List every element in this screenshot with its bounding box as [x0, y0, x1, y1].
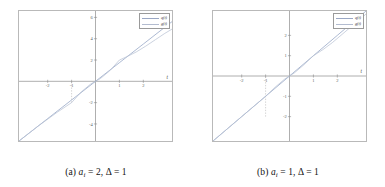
- svg-text:-2: -2: [240, 78, 245, 83]
- legend-line-swatch: [142, 18, 159, 19]
- legend-entry: g(t): [336, 21, 361, 27]
- legend-entry: g(t): [142, 21, 167, 27]
- svg-text:1: 1: [312, 78, 314, 83]
- caption-delta: Δ = 1: [106, 167, 127, 177]
- svg-text:-2: -2: [89, 100, 94, 105]
- svg-text:-2: -2: [46, 83, 51, 88]
- svg-text:-1: -1: [283, 94, 287, 99]
- caption-value: = 2,: [88, 167, 103, 177]
- svg-text:-2: -2: [283, 114, 288, 119]
- caption-index: (a): [65, 167, 76, 177]
- caption-index: (b): [257, 167, 268, 177]
- plot-area-a: -2-112-4-2246t q(t) g(t): [18, 10, 173, 142]
- caption-value: = 1,: [280, 167, 295, 177]
- legend-label: g(t): [355, 21, 361, 27]
- caption-subscript: i: [276, 171, 278, 179]
- panel-a: -2-112-4-2246t q(t) g(t) (a) ai = 2, Δ =…: [0, 0, 192, 187]
- svg-text:2: 2: [284, 33, 287, 38]
- svg-text:-4: -4: [89, 122, 94, 127]
- legend-line-swatch: [336, 24, 353, 25]
- legend-line-swatch: [142, 24, 159, 25]
- svg-text:2: 2: [336, 78, 339, 83]
- legend-a: q(t) g(t): [139, 13, 170, 29]
- panel-b: -2-112-2-112t q(t) g(t) (b) ai = 1, Δ = …: [192, 0, 384, 187]
- caption-subscript: i: [83, 171, 85, 179]
- plot-area-b: -2-112-2-112t q(t) g(t): [212, 10, 367, 142]
- svg-text:2: 2: [142, 83, 145, 88]
- caption-delta: Δ = 1: [298, 167, 319, 177]
- legend-line-swatch: [336, 18, 353, 19]
- legend-b: q(t) g(t): [333, 13, 364, 29]
- svg-text:t: t: [167, 74, 169, 80]
- svg-text:6: 6: [90, 15, 93, 20]
- svg-text:2: 2: [90, 58, 93, 63]
- plot-canvas-a: -2-112-4-2246t: [19, 11, 172, 141]
- plot-canvas-b: -2-112-2-112t: [213, 11, 366, 141]
- caption-b: (b) ai = 1, Δ = 1: [192, 167, 384, 179]
- caption-a: (a) ai = 2, Δ = 1: [0, 167, 192, 179]
- figure-two-panel: -2-112-4-2246t q(t) g(t) (a) ai = 2, Δ =…: [0, 0, 385, 187]
- svg-text:1: 1: [284, 53, 286, 58]
- svg-text:4: 4: [90, 36, 93, 41]
- svg-text:1: 1: [118, 83, 120, 88]
- svg-text:t: t: [361, 68, 363, 74]
- legend-label: g(t): [161, 21, 167, 27]
